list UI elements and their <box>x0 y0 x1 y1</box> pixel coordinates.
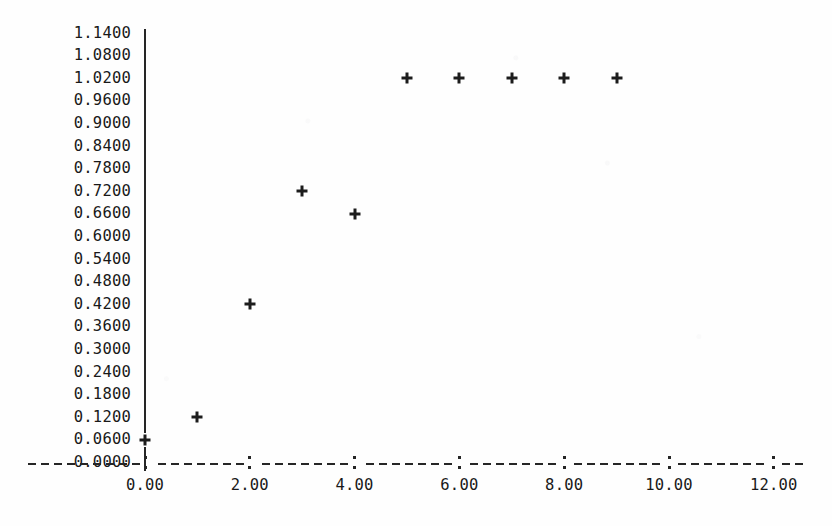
x-axis-dash <box>730 463 738 465</box>
x-axis-dash <box>392 463 400 465</box>
x-axis-dash <box>717 463 725 465</box>
data-point-marker <box>559 73 570 84</box>
x-axis-dash <box>197 463 205 465</box>
y-axis-line-segment <box>144 29 146 433</box>
y-axis-tick-label: 1.1400 <box>0 26 131 42</box>
y-axis-tick-label: 0.1800 <box>0 387 131 403</box>
x-axis-tick-mark <box>668 456 671 471</box>
x-axis-dash <box>470 463 478 465</box>
x-axis-dash <box>210 463 218 465</box>
x-axis-dash <box>535 463 543 465</box>
x-axis-dash <box>184 463 192 465</box>
data-point-marker <box>506 73 517 84</box>
x-axis-tick-label: 2.00 <box>231 478 269 494</box>
x-axis-dash <box>93 463 101 465</box>
x-axis-dash <box>496 463 504 465</box>
x-axis-tick-mark <box>353 456 356 471</box>
x-axis-tick-label: 6.00 <box>440 478 478 494</box>
x-axis-dash <box>613 463 621 465</box>
x-axis-dash <box>67 463 75 465</box>
x-axis-dash <box>444 463 452 465</box>
data-point-marker <box>454 73 465 84</box>
x-axis-dash <box>132 463 140 465</box>
x-axis-dash <box>418 463 426 465</box>
y-axis-tick-label: 0.0600 <box>0 432 131 448</box>
y-axis-tick-label: 0.1200 <box>0 410 131 426</box>
x-axis-dash <box>574 463 582 465</box>
x-axis-dash <box>795 463 803 465</box>
x-axis-dash <box>743 463 751 465</box>
y-axis-tick-label: 1.0200 <box>0 71 131 87</box>
x-axis-dash <box>522 463 530 465</box>
x-axis-dash <box>288 463 296 465</box>
x-axis-tick-label: 8.00 <box>545 478 583 494</box>
x-axis-dash <box>704 463 712 465</box>
x-axis-tick-mark <box>248 456 251 471</box>
data-point-marker <box>611 73 622 84</box>
ascii-scatter-plot: 1.14001.08001.02000.96000.90000.84000.78… <box>0 0 832 526</box>
y-axis-tick-label: 1.0800 <box>0 48 131 64</box>
x-axis-tick-mark <box>772 456 775 471</box>
y-axis-tick-label: 0.2400 <box>0 365 131 381</box>
x-axis-dash <box>587 463 595 465</box>
x-axis-dash <box>756 463 764 465</box>
y-axis-tick-label: 0.8400 <box>0 139 131 155</box>
x-axis-dash <box>782 463 790 465</box>
x-axis-dash <box>340 463 348 465</box>
y-axis-tick-label: 0.4200 <box>0 297 131 313</box>
x-axis-dash <box>509 463 517 465</box>
x-axis-tick-mark <box>458 456 461 471</box>
y-axis-tick-label: 0.9600 <box>0 93 131 109</box>
y-axis-tick-label: 0.7800 <box>0 161 131 177</box>
x-axis-dash <box>652 463 660 465</box>
x-axis-tick-label: 0.00 <box>126 478 164 494</box>
y-axis-tick-label: 0.6600 <box>0 206 131 222</box>
y-axis-tick-label: 0.7200 <box>0 184 131 200</box>
x-axis-dash <box>171 463 179 465</box>
x-axis-dash <box>41 463 49 465</box>
x-axis-dash <box>236 463 244 465</box>
x-axis-dash <box>366 463 374 465</box>
x-axis-dash <box>106 463 114 465</box>
x-axis-dash <box>80 463 88 465</box>
y-axis-tick-labels: 1.14001.08001.02000.96000.90000.84000.78… <box>0 0 131 526</box>
data-point-marker <box>140 434 151 445</box>
y-axis-tick-label: 0.3000 <box>0 342 131 358</box>
x-axis-dash <box>431 463 439 465</box>
x-axis-dash <box>678 463 686 465</box>
x-axis-dash <box>626 463 634 465</box>
x-axis-dash <box>483 463 491 465</box>
y-axis-tick-label: 0.5400 <box>0 252 131 268</box>
x-axis-dash <box>548 463 556 465</box>
y-axis-tick-label: 0.9000 <box>0 116 131 132</box>
data-point-marker <box>349 208 360 219</box>
x-axis-dash <box>314 463 322 465</box>
y-axis-tick-label: 0.6000 <box>0 229 131 245</box>
x-axis-tick-label: 10.00 <box>645 478 693 494</box>
x-axis-dash <box>301 463 309 465</box>
x-axis-dash <box>327 463 335 465</box>
x-axis-dash <box>262 463 270 465</box>
x-axis-dash <box>405 463 413 465</box>
x-axis-dash <box>28 463 36 465</box>
x-axis-dash <box>158 463 166 465</box>
x-axis-dash <box>119 463 127 465</box>
x-axis-dash <box>379 463 387 465</box>
data-point-marker <box>192 412 203 423</box>
y-axis-tick-label: 0.4800 <box>0 274 131 290</box>
data-point-marker <box>244 299 255 310</box>
x-axis-tick-mark <box>144 456 147 471</box>
x-axis-dash <box>275 463 283 465</box>
x-axis-dash <box>639 463 647 465</box>
x-axis-dash <box>600 463 608 465</box>
y-axis-tick-label: 0.3600 <box>0 319 131 335</box>
x-axis-tick-label: 4.00 <box>336 478 374 494</box>
x-axis-dash <box>54 463 62 465</box>
x-axis-dash <box>223 463 231 465</box>
x-axis-dash <box>691 463 699 465</box>
x-axis-tick-mark <box>563 456 566 471</box>
x-axis-tick-label: 12.00 <box>750 478 798 494</box>
data-point-marker <box>402 73 413 84</box>
data-point-marker <box>297 186 308 197</box>
